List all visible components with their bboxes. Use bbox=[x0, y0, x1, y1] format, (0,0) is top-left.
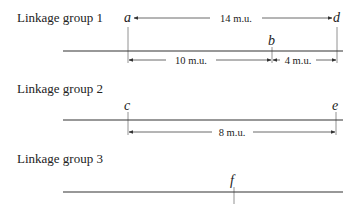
distance-label-c-e: 8 m.u. bbox=[219, 127, 246, 138]
linkage-map-diagram: Linkage group 1 a d b 14 m.u. 10 m.u. 4 … bbox=[0, 0, 362, 218]
linkage-group-1: Linkage group 1 a d b 14 m.u. 10 m.u. 4 … bbox=[17, 10, 343, 66]
linkage-group-3: Linkage group 3 f bbox=[17, 151, 343, 204]
group-3-label: Linkage group 3 bbox=[17, 151, 103, 166]
marker-a: a bbox=[124, 10, 131, 25]
distance-label-b-d: 4 m.u. bbox=[285, 55, 312, 66]
marker-f: f bbox=[230, 173, 236, 188]
group-1-label: Linkage group 1 bbox=[17, 10, 103, 25]
distance-label-a-b: 10 m.u. bbox=[175, 55, 207, 66]
marker-e: e bbox=[332, 98, 338, 113]
linkage-group-2: Linkage group 2 c e 8 m.u. bbox=[17, 81, 343, 138]
marker-c: c bbox=[124, 98, 131, 113]
group-2-label: Linkage group 2 bbox=[17, 81, 103, 96]
marker-b: b bbox=[268, 33, 275, 48]
distance-label-a-d: 14 m.u. bbox=[220, 13, 252, 24]
marker-d: d bbox=[333, 10, 341, 25]
